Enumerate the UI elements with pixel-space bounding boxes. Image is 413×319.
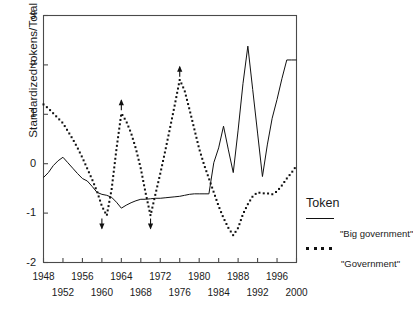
series-dot xyxy=(167,139,169,141)
series-dot xyxy=(108,205,110,207)
series-dot xyxy=(43,103,45,105)
series-dot xyxy=(91,179,93,181)
series-dot xyxy=(106,214,108,216)
arrow-head xyxy=(177,66,182,72)
series-dot xyxy=(271,193,273,195)
series-dot xyxy=(145,193,147,195)
series-dot xyxy=(289,174,291,176)
series-dot xyxy=(199,149,201,151)
series-dot xyxy=(172,113,174,115)
series-dot xyxy=(107,209,109,211)
trough-arrow-down-icon xyxy=(99,219,104,230)
series-dot xyxy=(136,150,138,152)
series-dot xyxy=(185,95,187,97)
series-dot xyxy=(83,159,85,161)
series-dot xyxy=(176,92,178,94)
series-dot xyxy=(88,171,90,173)
series-dot xyxy=(133,142,135,144)
series-dot xyxy=(49,109,51,111)
series-dot xyxy=(177,88,179,90)
series-dot xyxy=(247,203,249,205)
series-dot xyxy=(286,177,288,179)
arrow-head xyxy=(99,224,104,230)
series-dot xyxy=(208,178,210,180)
series-dot xyxy=(129,130,131,132)
series-dot xyxy=(61,122,63,124)
series-dot xyxy=(178,83,180,85)
series-dot xyxy=(126,122,128,124)
series-dot xyxy=(182,86,184,88)
series-dot xyxy=(213,191,215,193)
series-dot xyxy=(291,171,293,173)
series-dot xyxy=(111,184,113,186)
series-dot xyxy=(96,191,98,193)
series-dot xyxy=(281,185,283,187)
series-dot xyxy=(147,201,149,203)
series-dot xyxy=(110,192,112,194)
series-dot xyxy=(211,187,213,189)
series-dot xyxy=(205,170,207,172)
series-dot xyxy=(77,148,79,150)
series-dot xyxy=(113,166,115,168)
series-dot xyxy=(150,211,152,213)
trough-arrow-down-icon xyxy=(148,219,153,230)
series-dot xyxy=(237,227,239,229)
series-dot xyxy=(109,197,111,199)
series-dot xyxy=(275,191,277,193)
series-dot xyxy=(217,203,219,205)
series-dot xyxy=(159,173,161,175)
series-dot xyxy=(144,189,146,191)
series-dot xyxy=(188,107,190,109)
series-dot xyxy=(95,187,97,189)
series-dot xyxy=(73,140,75,142)
series-dot xyxy=(220,211,222,213)
series-dot xyxy=(198,145,200,147)
series-dot xyxy=(141,171,143,173)
series-dot xyxy=(58,118,60,120)
series-dot xyxy=(224,219,226,221)
series-dot xyxy=(137,155,139,157)
series-dot xyxy=(153,198,155,200)
legend-label-government: "Government" xyxy=(341,258,400,269)
series-dot xyxy=(174,100,176,102)
series-dot xyxy=(218,207,220,209)
series-dot xyxy=(267,192,269,194)
series-dot xyxy=(112,179,114,181)
legend-label-big-government: "Big government" xyxy=(340,228,413,239)
series-dot xyxy=(102,208,104,210)
series-dot xyxy=(204,166,206,168)
series-dot xyxy=(114,158,116,160)
series-dot xyxy=(141,176,143,178)
series-dot xyxy=(232,234,234,236)
series-dot xyxy=(118,132,120,134)
series-dot xyxy=(263,192,265,194)
series-dot xyxy=(148,206,150,208)
series-dot xyxy=(161,164,163,166)
series-dot xyxy=(189,111,191,113)
series-dot xyxy=(127,126,129,128)
series-dot xyxy=(113,171,115,173)
series-dot xyxy=(210,182,212,184)
series-dot xyxy=(258,192,260,194)
series-dot xyxy=(240,219,242,221)
series-dot xyxy=(179,79,181,81)
series-dot xyxy=(195,137,197,139)
series-dot xyxy=(227,227,229,229)
series-dot xyxy=(75,144,77,146)
series-dot xyxy=(215,199,217,201)
series-dot xyxy=(152,202,154,204)
series-dot xyxy=(243,211,245,213)
series-dot xyxy=(138,159,140,161)
series-dot xyxy=(203,162,205,164)
peak-arrow-up-icon xyxy=(119,99,124,110)
series-dot xyxy=(108,201,110,203)
series-dot xyxy=(200,154,202,156)
series-dot xyxy=(155,190,157,192)
series-dot xyxy=(169,126,171,128)
series-dot xyxy=(124,118,126,120)
series-dot xyxy=(170,122,172,124)
series-dot xyxy=(201,158,203,160)
series-dot xyxy=(238,223,240,225)
series-dot xyxy=(245,207,247,209)
series-dot xyxy=(164,151,166,153)
